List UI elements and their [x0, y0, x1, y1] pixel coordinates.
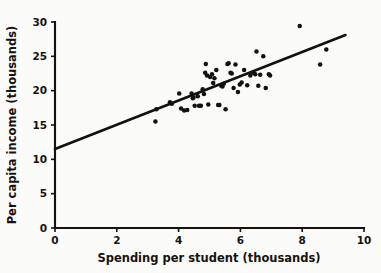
scatter-point [206, 102, 211, 107]
scatter-point [212, 76, 217, 81]
scatter-point [223, 107, 228, 112]
scatter-point [253, 72, 258, 77]
scatter-point [239, 80, 244, 85]
scatter-point [185, 108, 190, 113]
y-tick-label: 25 [32, 50, 47, 62]
y-tick-label: 15 [32, 119, 47, 131]
x-tick-label: 0 [51, 234, 58, 246]
scatter-point [229, 71, 234, 76]
scatter-point [245, 83, 250, 88]
plot-canvas: 0246810 051015202530 Spending per studen… [0, 0, 381, 273]
scatter-point [153, 119, 158, 124]
scatter-point [263, 86, 268, 91]
x-tick-label: 8 [299, 234, 306, 246]
scatter-point [211, 81, 216, 86]
y-tick-label: 0 [40, 222, 47, 234]
y-tick-label: 5 [40, 187, 47, 199]
x-tick-label: 2 [113, 234, 120, 246]
x-axis-tick-labels: 0246810 [51, 234, 371, 246]
scatter-point [236, 90, 241, 95]
scatter-point [177, 91, 182, 96]
scatter-point [226, 61, 231, 65]
x-axis-title: Spending per student (thousands) [97, 251, 320, 265]
y-tick-label: 20 [32, 84, 47, 96]
scatter-point [318, 62, 323, 67]
scatter-point [217, 103, 222, 108]
scatter-point [210, 72, 215, 77]
axes-group [51, 22, 364, 232]
scatter-point [233, 62, 238, 67]
scatter-point [242, 68, 247, 73]
scatter-point [268, 73, 273, 78]
scatter-point [261, 54, 266, 59]
y-tick-label: 10 [32, 153, 47, 165]
scatter-point [297, 24, 302, 29]
scatter-point [254, 49, 259, 54]
y-tick-label: 30 [32, 16, 47, 28]
regression-line [55, 35, 345, 149]
scatter-plot-figure: 0246810 051015202530 Spending per studen… [0, 0, 381, 273]
data-points-group [153, 24, 328, 124]
scatter-point [199, 104, 204, 109]
axis-lines [55, 22, 364, 228]
x-tick-label: 4 [175, 234, 182, 246]
scatter-point [258, 73, 263, 78]
scatter-point [231, 86, 236, 91]
scatter-point [192, 104, 197, 109]
y-axis-tick-labels: 051015202530 [32, 16, 47, 234]
scatter-point [324, 47, 329, 52]
x-tick-label: 6 [237, 234, 244, 246]
scatter-point [204, 62, 209, 67]
scatter-point [256, 84, 261, 89]
y-axis-title: Per capita income (thousands) [5, 26, 19, 225]
x-tick-label: 10 [357, 234, 372, 246]
scatter-point [214, 68, 219, 73]
